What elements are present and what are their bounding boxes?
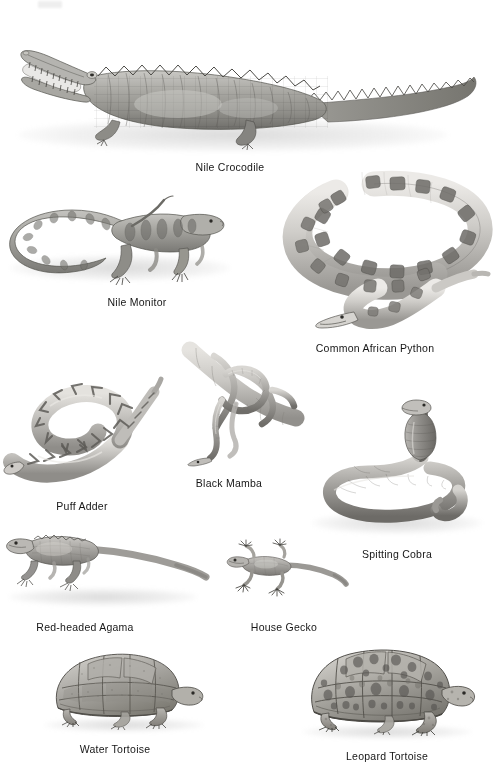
black-mamba-figure [176,344,300,466]
scan-smudge-artifact [38,1,62,8]
nile-monitor-figure [6,192,228,287]
caption-black-mamba: Black Mamba [196,477,262,489]
caption-water-tortoise: Water Tortoise [80,743,151,755]
caption-nile-crocodile: Nile Crocodile [196,161,265,173]
caption-spitting-cobra: Spitting Cobra [362,548,432,560]
caption-common-african-python: Common African Python [316,342,434,354]
common-african-python-figure [266,178,490,326]
caption-leopard-tortoise: Leopard Tortoise [346,750,428,762]
caption-puff-adder: Puff Adder [56,500,107,512]
leopard-tortoise-figure [300,648,476,736]
red-headed-agama-figure [4,515,209,595]
puff-adder-figure [2,362,172,490]
house-gecko-figure [222,543,348,599]
reptile-plate: Nile Crocodile [0,0,495,779]
spitting-cobra-figure [314,392,490,534]
nile-crocodile-figure [8,30,486,150]
water-tortoise-figure [42,650,206,728]
caption-house-gecko: House Gecko [251,621,317,633]
caption-nile-monitor: Nile Monitor [107,296,166,308]
caption-red-headed-agama: Red-headed Agama [36,621,133,633]
